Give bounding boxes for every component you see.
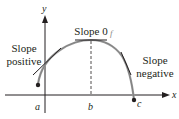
slope-negative-line2: negative [136, 67, 173, 79]
point-c-dot [132, 98, 136, 102]
slope-positive-line1: Slope [11, 42, 36, 54]
y-axis-label: y [41, 3, 47, 14]
x-axis [5, 92, 170, 98]
slope-diagram: x y a b c f Slope positive Slope 0 Slope… [0, 0, 179, 119]
slope-positive-line2: positive [7, 55, 42, 67]
point-a-dot [36, 83, 40, 87]
function-curve [38, 40, 134, 100]
y-axis-arrow-icon [42, 15, 48, 23]
function-label: f [110, 28, 114, 38]
point-a-label: a [35, 101, 40, 112]
x-axis-label: x [171, 89, 177, 100]
slope-zero-label: Slope 0 [74, 25, 108, 37]
slope-negative-line1: Slope [142, 54, 167, 66]
x-axis-arrow-icon [162, 92, 170, 98]
tangent-negative [121, 52, 131, 75]
point-c-label: c [137, 98, 142, 109]
point-b-label: b [88, 101, 93, 112]
